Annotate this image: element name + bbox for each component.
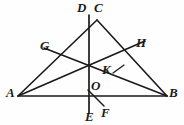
vertex-label-G: G — [40, 39, 49, 52]
vertex-label-H: H — [136, 36, 146, 49]
vertex-label-K: K — [102, 63, 111, 76]
vertex-label-B: B — [169, 86, 178, 99]
k-leader-line — [113, 65, 124, 73]
geometry-figure: A B C D E F G H K O — [0, 0, 184, 125]
vertex-label-E: E — [85, 110, 94, 123]
vertex-label-C: C — [94, 1, 103, 14]
vertex-label-D: D — [77, 1, 86, 14]
segment-AH — [18, 41, 145, 96]
vertex-label-O: O — [91, 79, 100, 92]
vertex-label-F: F — [101, 106, 110, 119]
geometry-canvas — [0, 0, 184, 125]
vertex-label-A: A — [6, 86, 15, 99]
segment-AC — [18, 20, 97, 96]
